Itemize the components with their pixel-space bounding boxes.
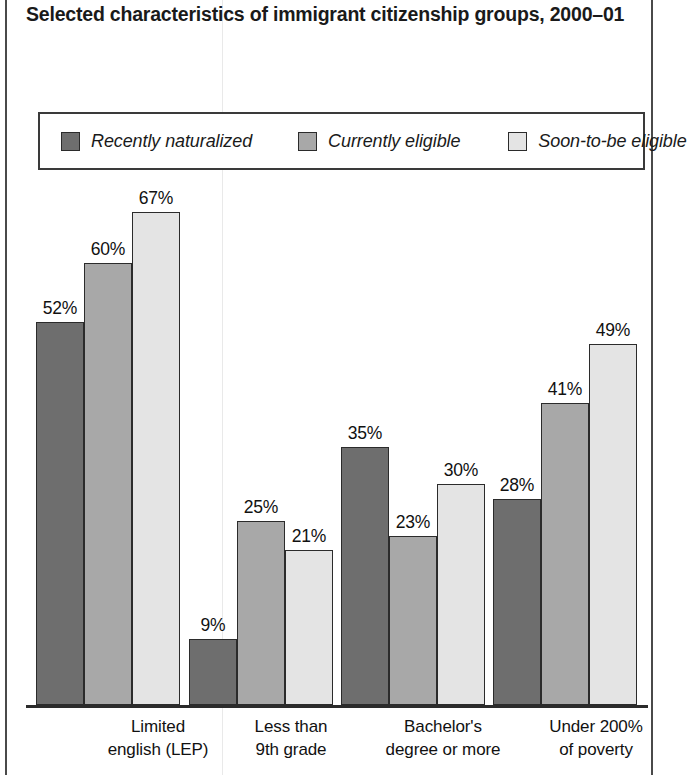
bar (36, 322, 84, 705)
x-axis-group-label-line: of poverty (559, 740, 633, 759)
x-axis-group-label-line: Limited (131, 717, 185, 736)
x-axis-group-label-line: Bachelor's (404, 717, 482, 736)
bar (237, 521, 285, 705)
x-axis-line (26, 705, 648, 708)
bar-value-label: 21% (273, 526, 345, 547)
bar (389, 536, 437, 705)
bar (285, 550, 333, 705)
bar (589, 344, 637, 705)
bar-value-label: 67% (120, 188, 192, 209)
x-axis-group-label-line: Under 200% (549, 717, 643, 736)
x-axis-group-label: Under 200%of poverty (501, 716, 691, 762)
bar (84, 263, 132, 705)
bar-value-label: 25% (225, 497, 297, 518)
x-axis-group-label-line: english (LEP) (108, 740, 209, 759)
x-axis-group-label-line: Less than (255, 717, 328, 736)
bar-value-label: 49% (577, 320, 649, 341)
bar (437, 484, 485, 705)
x-axis-group-label-line: 9th grade (256, 740, 327, 759)
bar (341, 447, 389, 705)
bar (132, 212, 180, 705)
bar-value-label: 35% (329, 423, 401, 444)
x-axis-group-label-line: degree or more (386, 740, 501, 759)
bar (541, 403, 589, 705)
bar (493, 499, 541, 705)
bar (189, 639, 237, 705)
